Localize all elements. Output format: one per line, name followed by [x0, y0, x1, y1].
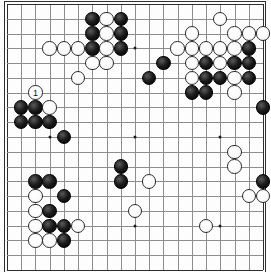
- stone-white[interactable]: [42, 233, 56, 247]
- stone-white[interactable]: [227, 159, 241, 173]
- stone-white[interactable]: [227, 26, 241, 40]
- star-point: [48, 136, 51, 139]
- grid-line-horizontal: [7, 152, 263, 153]
- stone-black[interactable]: [14, 100, 28, 114]
- stone-black[interactable]: [114, 12, 128, 26]
- stone-black[interactable]: [199, 85, 213, 99]
- stone-black[interactable]: [42, 174, 56, 188]
- go-board-figure: 1: [0, 0, 271, 278]
- stone-white[interactable]: [99, 56, 113, 70]
- stone-white[interactable]: [28, 204, 42, 218]
- stone-white[interactable]: [199, 219, 213, 233]
- stone-black[interactable]: [85, 26, 99, 40]
- move-number-label: 1: [29, 88, 41, 97]
- stone-black[interactable]: [28, 115, 42, 129]
- grid-line-horizontal: [7, 270, 263, 271]
- stone-black[interactable]: [256, 174, 270, 188]
- stone-white[interactable]: [227, 145, 241, 159]
- stone-black[interactable]: [256, 100, 270, 114]
- stone-white[interactable]: [99, 41, 113, 55]
- grid-line-horizontal: [7, 196, 263, 197]
- stone-black[interactable]: [28, 100, 42, 114]
- stone-white[interactable]: [42, 41, 56, 55]
- stone-black[interactable]: [114, 159, 128, 173]
- stone-black[interactable]: [42, 204, 56, 218]
- star-point: [133, 136, 136, 139]
- stone-white[interactable]: [185, 71, 199, 85]
- grid-line-horizontal: [7, 167, 263, 168]
- stone-white[interactable]: [142, 174, 156, 188]
- stone-white[interactable]: [71, 41, 85, 55]
- stone-white[interactable]: [28, 189, 42, 203]
- stone-black[interactable]: [227, 56, 241, 70]
- stone-black[interactable]: [114, 26, 128, 40]
- stone-black[interactable]: [242, 71, 256, 85]
- board-bottom-margin: [0, 272, 271, 278]
- stone-white[interactable]: [213, 41, 227, 55]
- stone-white[interactable]: [28, 233, 42, 247]
- stone-white[interactable]: [99, 26, 113, 40]
- grid-line-horizontal: [7, 34, 263, 35]
- stone-black[interactable]: [57, 233, 71, 247]
- stone-white[interactable]: [170, 41, 184, 55]
- stone-black[interactable]: [185, 85, 199, 99]
- stone-black[interactable]: [42, 219, 56, 233]
- grid-line-horizontal: [7, 255, 263, 256]
- stone-black[interactable]: [242, 56, 256, 70]
- stone-white[interactable]: [57, 41, 71, 55]
- stone-white[interactable]: [99, 12, 113, 26]
- grid-line-horizontal: [7, 93, 263, 94]
- grid-line-vertical: [263, 4, 264, 270]
- stone-white[interactable]: [185, 41, 199, 55]
- stone-white[interactable]: [28, 219, 42, 233]
- stone-black[interactable]: [57, 219, 71, 233]
- stone-white[interactable]: [85, 56, 99, 70]
- stone-black[interactable]: [28, 174, 42, 188]
- grid-line-horizontal: [7, 4, 263, 5]
- stone-white[interactable]: [42, 100, 56, 114]
- stone-black[interactable]: [85, 41, 99, 55]
- star-point: [133, 224, 136, 227]
- stone-white[interactable]: [227, 85, 241, 99]
- stone-white[interactable]: [242, 26, 256, 40]
- stone-white[interactable]: [227, 41, 241, 55]
- stone-white[interactable]: [199, 41, 213, 55]
- star-point: [219, 136, 222, 139]
- star-point: [219, 224, 222, 227]
- stone-black[interactable]: [114, 41, 128, 55]
- stone-black[interactable]: [114, 174, 128, 188]
- stone-white[interactable]: [71, 219, 85, 233]
- stone-white[interactable]: [185, 26, 199, 40]
- star-point: [133, 47, 136, 50]
- stone-white[interactable]: [256, 26, 270, 40]
- stone-black[interactable]: [85, 12, 99, 26]
- stone-black[interactable]: [242, 41, 256, 55]
- stone-white[interactable]: [227, 71, 241, 85]
- stone-white-move-1[interactable]: 1: [28, 85, 42, 99]
- stone-black[interactable]: [156, 56, 170, 70]
